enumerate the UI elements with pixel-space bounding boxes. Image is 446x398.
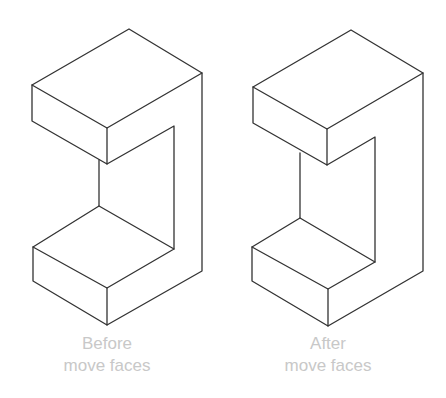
after-inner-back-top [327,137,375,262]
before-shape [32,29,202,325]
after-caption-line1: After [248,333,408,355]
after-caption-line2: move faces [248,355,408,377]
after-bottom-block-front [252,247,328,326]
before-bottom-top-face [33,206,174,288]
before-caption: Before move faces [27,333,187,377]
after-caption: After move faces [248,333,408,377]
before-bottom-block-front [33,247,107,325]
after-shape [252,30,423,326]
after-bottom-top-face [252,218,375,289]
before-caption-line2: move faces [27,355,187,377]
before-inner-back-top [107,126,174,249]
before-caption-line1: Before [27,333,187,355]
